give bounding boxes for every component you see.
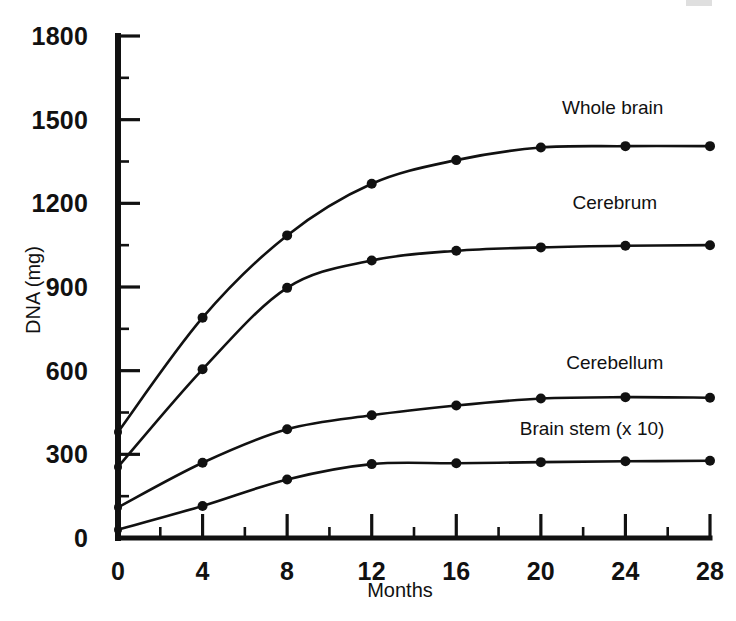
data-point-marker [620,392,630,402]
x-axis-title: Months [367,579,433,601]
data-point-marker [114,503,122,511]
y-tick-label: 0 [74,524,88,552]
y-tick-label: 900 [46,273,88,301]
data-point-marker [536,143,546,153]
x-tick-label: 8 [280,557,294,585]
series-label-4: Brain stem (x 10) [520,418,665,439]
data-point-marker [536,242,546,252]
scan-artifact [686,0,712,6]
x-axis [118,514,710,538]
series-label-1: Whole brain [562,97,663,118]
series-label-2: Cerebrum [573,192,657,213]
data-point-marker [114,463,122,471]
data-point-marker [114,526,122,534]
figure-canvas: 0300600900120015001800 0481216202428 Who… [0,0,736,621]
data-point-marker [282,424,292,434]
y-tick-label: 1200 [32,189,88,217]
y-tick-label: 1800 [32,22,88,50]
data-point-marker [282,283,292,293]
y-axis-title: DNA (mg) [22,246,44,334]
data-point-marker [451,458,461,468]
data-point-marker [367,410,377,420]
x-tick-label: 20 [527,557,555,585]
data-point-marker [367,459,377,469]
data-point-marker [536,457,546,467]
data-point-marker [282,230,292,240]
data-point-marker [451,155,461,165]
series-label-3: Cerebellum [566,352,663,373]
data-point-marker [705,240,715,250]
x-tick-label: 4 [196,557,210,585]
data-point-marker [282,474,292,484]
data-point-marker [198,501,208,511]
series-curve [118,146,710,432]
data-point-marker [705,393,715,403]
data-point-marker [620,241,630,251]
data-point-marker [367,256,377,266]
series-curve [118,397,710,507]
y-tick-label: 300 [46,440,88,468]
data-point-marker [198,313,208,323]
data-point-marker [367,179,377,189]
series-curve [118,461,710,530]
dna-growth-line-chart: 0300600900120015001800 0481216202428 Who… [0,0,736,621]
y-tick-label: 1500 [32,106,88,134]
data-point-marker [198,364,208,374]
data-point-marker [198,458,208,468]
x-tick-label: 0 [111,557,125,585]
y-tick-label: 600 [46,357,88,385]
data-point-marker [705,141,715,151]
x-tick-label: 28 [696,557,724,585]
data-point-marker [114,428,122,436]
data-point-marker [451,401,461,411]
x-tick-label: 16 [442,557,470,585]
data-point-marker [620,141,630,151]
data-point-marker [451,246,461,256]
data-point-marker [705,456,715,466]
data-point-marker [536,394,546,404]
data-point-marker [620,456,630,466]
x-tick-label: 24 [611,557,639,585]
